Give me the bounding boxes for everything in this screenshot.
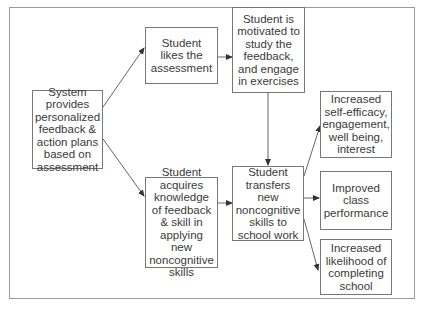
node-system-provides-feedback: System provides personalized feedback & … xyxy=(32,90,103,169)
node-increased-self-efficacy: Increased self-efficacy, engagement, wel… xyxy=(320,91,392,158)
node-student-transfers-skills: Student transfers new noncognitive skill… xyxy=(232,166,304,241)
node-increased-likelihood-completing: Increased likelihood of completing schoo… xyxy=(320,239,392,295)
node-label: System provides personalized feedback & … xyxy=(35,86,100,174)
node-student-acquires-knowledge: Student acquires knowledge of feedback &… xyxy=(145,177,218,268)
node-student-motivated: Student is motivated to study the feedba… xyxy=(232,7,305,93)
node-label: Student transfers new noncognitive skill… xyxy=(236,166,301,241)
node-label: Student is motivated to study the feedba… xyxy=(236,13,301,88)
node-label: Student likes the assessment xyxy=(149,37,214,75)
node-improved-class-performance: Improved class performance xyxy=(320,171,392,230)
node-label: Increased likelihood of completing schoo… xyxy=(324,242,388,292)
node-label: Improved class performance xyxy=(324,182,389,220)
node-label: Increased self-efficacy, engagement, wel… xyxy=(322,93,389,156)
node-student-likes-assessment: Student likes the assessment xyxy=(145,27,218,84)
node-label: Student acquires knowledge of feedback &… xyxy=(149,166,214,279)
